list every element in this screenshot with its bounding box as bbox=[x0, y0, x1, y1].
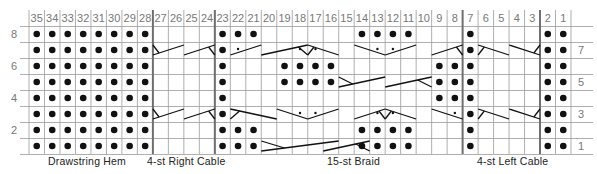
purl-dot bbox=[312, 63, 319, 70]
purl-dot bbox=[33, 127, 40, 134]
cable-leg bbox=[418, 80, 432, 87]
column-number: 3 bbox=[529, 12, 535, 24]
purl-dot bbox=[142, 111, 149, 118]
purl-dot bbox=[560, 127, 567, 134]
purl-dot bbox=[452, 95, 459, 102]
row-number-left: 4 bbox=[11, 92, 17, 104]
column-number: 1 bbox=[560, 12, 566, 24]
purl-dot bbox=[49, 79, 56, 86]
purl-dot bbox=[64, 79, 71, 86]
purl-dot bbox=[111, 31, 118, 38]
purl-dot bbox=[436, 79, 443, 86]
purl-dot bbox=[142, 47, 149, 54]
cable-purl-dot bbox=[314, 112, 316, 114]
purl-dot bbox=[467, 111, 474, 118]
purl-dot bbox=[80, 95, 87, 102]
purl-dot bbox=[142, 143, 149, 150]
purl-dot bbox=[95, 143, 102, 150]
purl-dot bbox=[80, 63, 87, 70]
row-number-left: 6 bbox=[11, 60, 17, 72]
purl-dot bbox=[111, 63, 118, 70]
purl-dot bbox=[250, 143, 257, 150]
purl-dot bbox=[80, 79, 87, 86]
column-number: 9 bbox=[436, 12, 442, 24]
purl-dot bbox=[544, 31, 551, 38]
purl-dot bbox=[436, 95, 443, 102]
purl-dot bbox=[142, 63, 149, 70]
purl-dot bbox=[111, 127, 118, 134]
cable-line bbox=[230, 109, 276, 119]
purl-dot bbox=[544, 79, 551, 86]
cable-leg bbox=[478, 111, 484, 119]
purl-dot bbox=[405, 31, 412, 38]
purl-dot bbox=[219, 47, 226, 54]
column-number: 6 bbox=[483, 12, 489, 24]
purl-dot bbox=[126, 111, 133, 118]
column-number: 13 bbox=[371, 12, 383, 24]
cable-purl-dot bbox=[454, 112, 456, 114]
purl-dot bbox=[126, 79, 133, 86]
purl-dot bbox=[219, 31, 226, 38]
purl-dot bbox=[544, 143, 551, 150]
cable-purl-dot bbox=[392, 48, 394, 50]
purl-dot bbox=[49, 31, 56, 38]
row-number-right: 5 bbox=[578, 76, 584, 88]
purl-dot bbox=[95, 111, 102, 118]
purl-dot bbox=[95, 63, 102, 70]
column-number: 29 bbox=[124, 12, 136, 24]
cable-leg bbox=[308, 47, 314, 55]
row-number-right: 1 bbox=[578, 140, 584, 152]
purl-dot bbox=[235, 31, 242, 38]
purl-dot bbox=[544, 47, 551, 54]
purl-dot bbox=[95, 31, 102, 38]
purl-dot bbox=[142, 31, 149, 38]
purl-dot bbox=[33, 143, 40, 150]
column-number: 10 bbox=[418, 12, 430, 24]
row-number-right: 7 bbox=[578, 44, 584, 56]
purl-dot bbox=[126, 47, 133, 54]
purl-dot bbox=[219, 79, 226, 86]
purl-dot bbox=[560, 111, 567, 118]
column-number: 14 bbox=[356, 12, 368, 24]
purl-dot bbox=[467, 95, 474, 102]
section-label-left-cable: 4-st Left Cable bbox=[477, 155, 548, 167]
purl-dot bbox=[126, 95, 133, 102]
purl-dot bbox=[95, 79, 102, 86]
purl-dot bbox=[95, 95, 102, 102]
cable-leg bbox=[339, 77, 353, 84]
cable-line bbox=[261, 141, 338, 151]
column-number: 26 bbox=[170, 12, 182, 24]
cable-leg bbox=[385, 111, 391, 119]
purl-dot bbox=[560, 31, 567, 38]
purl-dot bbox=[297, 79, 304, 86]
purl-dot bbox=[436, 63, 443, 70]
cable-purl-dot bbox=[376, 48, 378, 50]
column-number: 15 bbox=[340, 12, 352, 24]
column-number: 17 bbox=[309, 12, 321, 24]
purl-dot bbox=[219, 127, 226, 134]
cable-purl-dot bbox=[299, 112, 301, 114]
purl-dot bbox=[49, 95, 56, 102]
purl-dot bbox=[80, 111, 87, 118]
purl-dot bbox=[390, 31, 397, 38]
purl-dot bbox=[111, 47, 118, 54]
column-number: 20 bbox=[263, 12, 275, 24]
purl-dot bbox=[250, 31, 257, 38]
purl-dot bbox=[467, 127, 474, 134]
purl-dot bbox=[560, 79, 567, 86]
purl-dot bbox=[111, 143, 118, 150]
purl-dot bbox=[374, 143, 381, 150]
purl-dot bbox=[49, 143, 56, 150]
purl-dot bbox=[250, 127, 257, 134]
column-number: 22 bbox=[232, 12, 244, 24]
column-number: 25 bbox=[185, 12, 197, 24]
purl-dot bbox=[49, 111, 56, 118]
purl-dot bbox=[33, 31, 40, 38]
cable-leg bbox=[379, 111, 385, 119]
cable-line bbox=[385, 77, 431, 87]
purl-dot bbox=[49, 63, 56, 70]
cable-leg bbox=[230, 111, 239, 119]
row-number-left: 2 bbox=[11, 124, 17, 136]
purl-dot bbox=[297, 63, 304, 70]
purl-dot bbox=[312, 79, 319, 86]
